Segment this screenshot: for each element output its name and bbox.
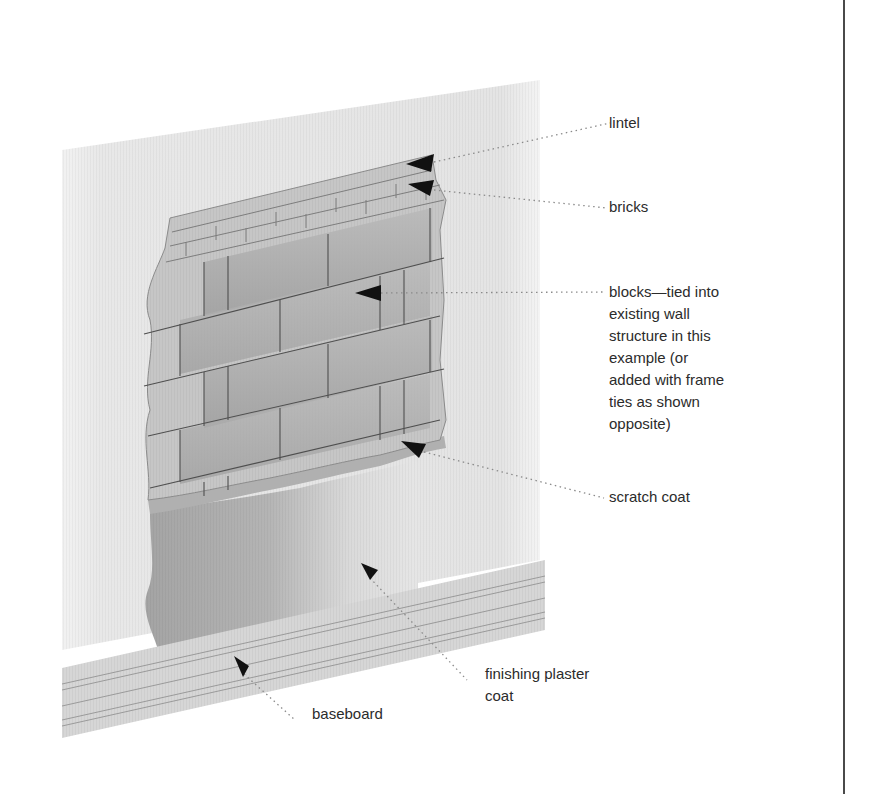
label-lintel: lintel [609, 112, 640, 134]
wall-diagram [0, 0, 872, 794]
label-blocks: blocks—tied into existing wall structure… [609, 281, 724, 435]
label-finishing-plaster-coat: finishing plaster coat [485, 663, 589, 707]
label-scratch-coat: scratch coat [609, 486, 690, 508]
label-bricks: bricks [609, 196, 648, 218]
page-margin-rule [843, 0, 845, 794]
label-baseboard: baseboard [312, 703, 383, 725]
